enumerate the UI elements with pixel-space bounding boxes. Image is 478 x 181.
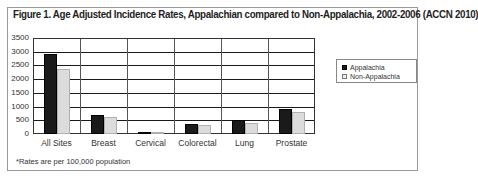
x-tick-label: Lung — [221, 138, 268, 148]
legend-item-appalachia: Appalachia — [342, 64, 385, 71]
y-tick-label: 500 — [3, 116, 29, 124]
x-tick-label: Prostate — [268, 138, 315, 148]
x-tick-label: Colorectal — [174, 138, 221, 148]
bar-non-appalachia — [151, 132, 164, 134]
x-tick-label: Breast — [80, 138, 127, 148]
bar-appalachia — [232, 120, 245, 134]
bar-appalachia — [44, 54, 57, 134]
y-tick-label: 0 — [3, 130, 29, 138]
legend-swatch-icon — [342, 74, 347, 79]
y-tick-label: 3000 — [3, 48, 29, 56]
bar-appalachia — [279, 109, 292, 134]
legend: Appalachia Non-Appalachia — [336, 59, 417, 83]
x-tick-label: Cervical — [127, 138, 174, 148]
x-tick-label: All Sites — [33, 138, 80, 148]
bar-non-appalachia — [198, 125, 211, 134]
y-tick-label: 3500 — [3, 34, 29, 42]
chart-title: Figure 1. Age Adjusted Incidence Rates, … — [13, 8, 478, 20]
bar-series — [33, 38, 315, 134]
bar-appalachia — [138, 132, 151, 134]
bar-non-appalachia — [57, 69, 70, 134]
y-tick-label: 2500 — [3, 61, 29, 69]
bar-non-appalachia — [245, 123, 258, 134]
legend-label: Appalachia — [350, 64, 385, 71]
legend-swatch-icon — [342, 65, 347, 70]
y-tick-label: 1000 — [3, 103, 29, 111]
footnote: *Rates are per 100,000 population — [16, 157, 130, 166]
legend-label: Non-Appalachia — [350, 73, 400, 80]
bar-appalachia — [91, 115, 104, 134]
bar-appalachia — [185, 124, 198, 134]
y-tick-label: 2000 — [3, 75, 29, 83]
legend-item-non-appalachia: Non-Appalachia — [342, 73, 400, 80]
bar-non-appalachia — [292, 112, 305, 134]
bar-non-appalachia — [104, 117, 117, 134]
y-tick-label: 1500 — [3, 89, 29, 97]
